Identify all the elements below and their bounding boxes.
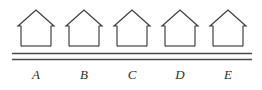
house-outline-d <box>162 10 198 46</box>
house-outline-c <box>114 10 150 46</box>
house-label-b: B <box>80 67 88 82</box>
road-group <box>12 54 252 60</box>
house-label-a: A <box>31 67 40 82</box>
house-labels-group: ABCDE <box>31 67 232 82</box>
house-outline-e <box>210 10 246 46</box>
house-label-d: D <box>174 67 185 82</box>
house-outline-b <box>66 10 102 46</box>
figure-canvas: ABCDE <box>0 0 262 90</box>
house-label-e: E <box>223 67 232 82</box>
houses-road-diagram: ABCDE <box>0 0 262 90</box>
houses-group <box>18 10 246 46</box>
house-label-c: C <box>128 67 137 82</box>
house-outline-a <box>18 10 54 46</box>
